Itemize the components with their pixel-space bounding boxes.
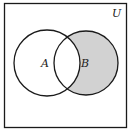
venn-diagram: U A B [0, 0, 129, 131]
set-a-label: A [40, 57, 49, 70]
set-b-label: B [80, 57, 89, 70]
venn-svg: U A B [0, 0, 129, 131]
universe-label: U [112, 7, 122, 20]
